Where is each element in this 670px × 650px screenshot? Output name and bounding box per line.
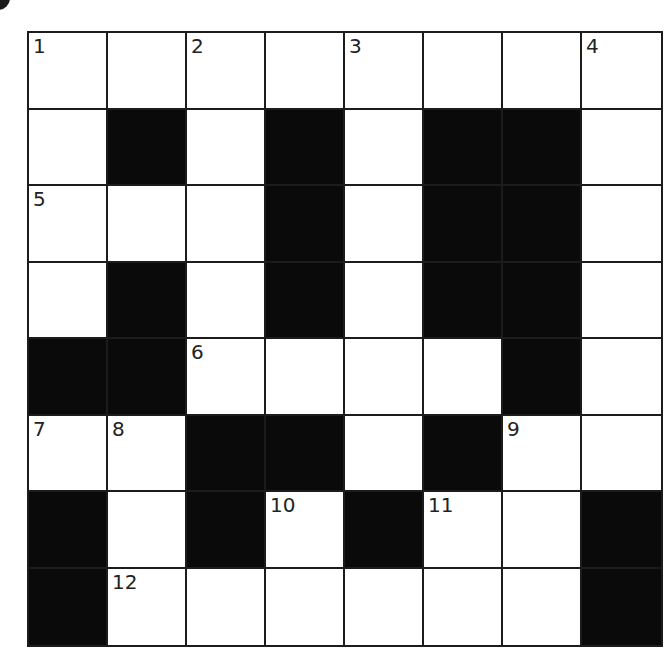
answer-cell[interactable] <box>187 186 266 263</box>
answer-cell[interactable] <box>345 569 424 646</box>
answer-cell[interactable]: 3 <box>345 33 424 110</box>
block-cell <box>503 110 582 187</box>
crossword-grid: 123456789101112 <box>27 31 663 647</box>
answer-cell[interactable] <box>582 339 661 416</box>
answer-cell[interactable]: 6 <box>187 339 266 416</box>
block-cell <box>266 186 345 263</box>
answer-cell[interactable]: 1 <box>29 33 108 110</box>
clue-number: 7 <box>33 418 46 440</box>
answer-cell[interactable] <box>266 339 345 416</box>
corner-decoration-icon <box>0 0 10 10</box>
answer-cell[interactable] <box>187 569 266 646</box>
block-cell <box>29 339 108 416</box>
answer-cell[interactable] <box>503 569 582 646</box>
answer-cell[interactable] <box>424 33 503 110</box>
clue-number: 12 <box>112 571 137 593</box>
clue-number: 4 <box>586 35 599 57</box>
block-cell <box>424 263 503 340</box>
answer-cell[interactable] <box>345 186 424 263</box>
clue-number: 5 <box>33 188 46 210</box>
answer-cell[interactable]: 7 <box>29 416 108 493</box>
block-cell <box>503 339 582 416</box>
block-cell <box>29 569 108 646</box>
answer-cell[interactable] <box>187 110 266 187</box>
block-cell <box>503 186 582 263</box>
block-cell <box>345 492 424 569</box>
answer-cell[interactable] <box>424 569 503 646</box>
answer-cell[interactable]: 8 <box>108 416 187 493</box>
block-cell <box>424 110 503 187</box>
block-cell <box>29 492 108 569</box>
block-cell <box>108 339 187 416</box>
answer-cell[interactable] <box>29 263 108 340</box>
clue-number: 6 <box>191 341 204 363</box>
answer-cell[interactable] <box>108 186 187 263</box>
clue-number: 10 <box>270 494 295 516</box>
block-cell <box>266 263 345 340</box>
block-cell <box>424 416 503 493</box>
clue-number: 9 <box>507 418 520 440</box>
answer-cell[interactable] <box>187 263 266 340</box>
block-cell <box>108 110 187 187</box>
clue-number: 8 <box>112 418 125 440</box>
answer-cell[interactable]: 5 <box>29 186 108 263</box>
answer-cell[interactable] <box>345 263 424 340</box>
answer-cell[interactable]: 12 <box>108 569 187 646</box>
answer-cell[interactable] <box>29 110 108 187</box>
answer-cell[interactable] <box>345 416 424 493</box>
block-cell <box>503 263 582 340</box>
clue-number: 2 <box>191 35 204 57</box>
answer-cell[interactable]: 9 <box>503 416 582 493</box>
answer-cell[interactable] <box>582 263 661 340</box>
answer-cell[interactable]: 11 <box>424 492 503 569</box>
block-cell <box>187 492 266 569</box>
answer-cell[interactable]: 2 <box>187 33 266 110</box>
answer-cell[interactable] <box>266 33 345 110</box>
block-cell <box>266 416 345 493</box>
block-cell <box>266 110 345 187</box>
answer-cell[interactable] <box>582 416 661 493</box>
answer-cell[interactable]: 4 <box>582 33 661 110</box>
clue-number: 11 <box>428 494 453 516</box>
block-cell <box>582 492 661 569</box>
answer-cell[interactable] <box>582 110 661 187</box>
clue-number: 1 <box>33 35 46 57</box>
answer-cell[interactable] <box>582 186 661 263</box>
answer-cell[interactable] <box>108 33 187 110</box>
clue-number: 3 <box>349 35 362 57</box>
answer-cell[interactable]: 10 <box>266 492 345 569</box>
block-cell <box>108 263 187 340</box>
answer-cell[interactable] <box>424 339 503 416</box>
answer-cell[interactable] <box>345 339 424 416</box>
block-cell <box>582 569 661 646</box>
answer-cell[interactable] <box>503 492 582 569</box>
answer-cell[interactable] <box>266 569 345 646</box>
answer-cell[interactable] <box>345 110 424 187</box>
block-cell <box>187 416 266 493</box>
block-cell <box>424 186 503 263</box>
answer-cell[interactable] <box>503 33 582 110</box>
answer-cell[interactable] <box>108 492 187 569</box>
